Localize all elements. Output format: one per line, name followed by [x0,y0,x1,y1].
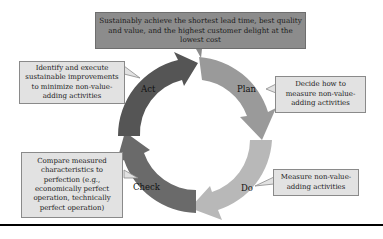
goal-pointer [196,49,202,58]
do-label: Do [241,183,253,193]
do-arrow [190,140,272,220]
check-description: Compare measured characteristics to perf… [25,157,119,213]
do-callout: Measure non-value-adding activities [273,169,359,196]
plan-callout: Decide how to measure non-value-adding a… [275,76,366,113]
act-arrow [118,52,198,136]
do-description: Measure non-value-adding activities [277,173,355,192]
check-callout: Compare measured characteristics to perf… [21,152,123,218]
check-label: Check [133,182,160,192]
act-callout-tail [124,66,140,78]
act-description: Identify and execute sustainable improve… [23,64,121,102]
act-label: Act [141,84,155,94]
plan-label: Plan [237,84,256,94]
plan-description: Decide how to measure non-value-adding a… [279,80,362,108]
bottom-rule [0,224,383,226]
plan-arrow [199,57,276,140]
act-callout: Identify and execute sustainable improve… [19,61,125,104]
